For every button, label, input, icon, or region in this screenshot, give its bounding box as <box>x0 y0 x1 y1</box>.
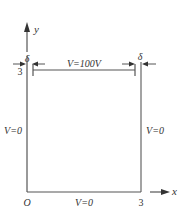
x-tick-3: 3 <box>139 197 144 208</box>
x-axis-label: x <box>171 185 177 197</box>
potential-box-diagram: y δ 3 δ V=100V V=0 V=0 O V=0 3 x <box>0 0 179 217</box>
origin-label: O <box>23 197 30 208</box>
left-boundary-label: V=0 <box>4 125 22 136</box>
x-axis <box>150 189 170 195</box>
y-axis-arrowhead-icon <box>24 22 30 32</box>
x-axis-arrowhead-icon <box>161 189 170 195</box>
y-axis-label: y <box>33 23 39 35</box>
bottom-boundary-label: V=0 <box>75 197 93 208</box>
gap-label-right: δ <box>138 51 143 62</box>
y-axis <box>24 22 30 52</box>
gap-marker-right <box>122 62 156 67</box>
y-tick-3: 3 <box>18 66 23 77</box>
right-boundary-label: V=0 <box>146 125 164 136</box>
top-boundary-label: V=100V <box>67 58 103 69</box>
